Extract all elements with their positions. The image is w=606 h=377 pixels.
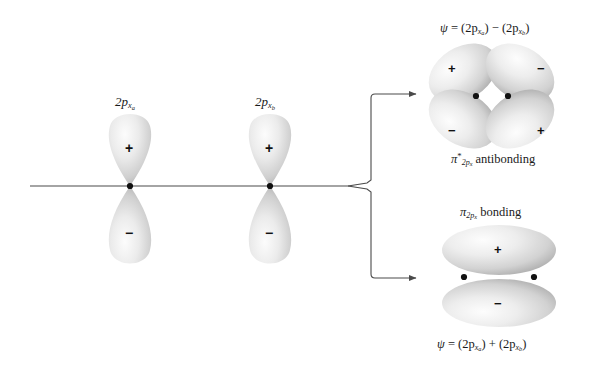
sign-antibonding-bottom-left: − [448,124,456,137]
sign-plus-orbital-a-top: + [125,141,133,155]
bonding-equation: ψ = (2pxa) + (2pxb) [437,337,526,353]
label-subsub: b [272,104,275,111]
name-word: antibonding [476,152,536,166]
equation-part-2: ) + (2p [481,337,515,351]
label-prefix: 2p [255,94,268,109]
antibonding-name-label: π*2px antibonding [451,151,535,168]
sign-bonding-bottom: − [494,297,502,310]
node-dot [267,183,273,189]
sign-minus-orbital-b-bottom: − [265,226,273,240]
sign-bonding-top: + [494,243,502,256]
sign-antibonding-top-left: + [448,62,456,75]
equation-part-3: ) [525,21,529,35]
orbital-diagram-svg [0,0,606,377]
node-dot [127,183,133,189]
node-dot [473,93,479,99]
name-word: bonding [480,205,521,219]
psi-symbol: ψ [440,21,448,35]
atomic-orbital-b-label: 2pxb [255,94,275,111]
equation-part-3: ) [522,337,526,351]
sign-antibonding-top-right: − [537,62,545,75]
atomic-orbital-2px-b [249,114,291,264]
name-sub: 2p [462,158,470,167]
node-dot [505,93,511,99]
node-dot [531,274,537,280]
label-prefix: 2p [115,94,128,109]
psi-symbol: ψ [437,337,445,351]
figure-canvas: 2pxa 2pxb + − + − ψ = (2pxa) − (2pxb) + … [0,0,606,377]
antibonding-orbital-lobes [418,31,565,160]
antibonding-equation: ψ = (2pxa) − (2pxb) [440,21,529,37]
atomic-orbital-a-label: 2pxa [115,94,135,111]
sign-antibonding-bottom-right: + [537,124,545,137]
equation-part-1: = (2p [448,21,478,35]
bonding-name-label: π2px bonding [460,205,521,221]
bonding-orbital-lobes [442,225,556,327]
branch-connector [348,94,416,278]
equation-part-2: ) − (2p [484,21,518,35]
sign-plus-orbital-b-top: + [265,141,273,155]
label-subsub: a [132,104,135,111]
sign-minus-orbital-a-bottom: − [125,226,133,240]
node-dot [461,274,467,280]
atomic-orbital-2px-a [109,114,151,264]
equation-part-1: = (2p [445,337,475,351]
